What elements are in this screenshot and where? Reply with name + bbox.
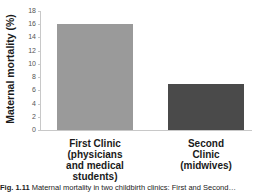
x-label-second-clinic: Second Clinic (midwives): [161, 138, 251, 171]
x-label-first-clinic: First Clinic (physicians and medical stu…: [50, 138, 140, 182]
caption-text: Maternal mortality in two childbirth cli…: [30, 183, 236, 192]
y-tick-label: 16: [22, 20, 36, 28]
y-tick-label: 8: [22, 73, 36, 81]
y-tick-label: 18: [22, 7, 36, 15]
y-tick-label: 14: [22, 33, 36, 41]
y-tick-label: 0: [22, 126, 36, 134]
y-tick-label: 2: [22, 113, 36, 121]
bar-chart: Maternal mortality (%) 024681012141618 F…: [0, 0, 275, 193]
x-axis-line: [40, 130, 252, 131]
y-axis-line: [40, 11, 41, 131]
bar-second-clinic: [168, 84, 244, 130]
y-tick-label: 12: [22, 47, 36, 55]
y-tick-label: 6: [22, 86, 36, 94]
y-tick-label: 4: [22, 100, 36, 108]
caption-prefix: Fig. 1.11: [0, 183, 30, 192]
bar-first-clinic: [57, 24, 133, 130]
y-tick-label: 10: [22, 60, 36, 68]
figure-caption: Fig. 1.11 Maternal mortality in two chil…: [0, 183, 275, 192]
y-axis-label: Maternal mortality (%): [4, 14, 18, 124]
